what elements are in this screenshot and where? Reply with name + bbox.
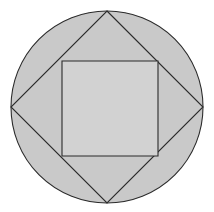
inner-square bbox=[62, 61, 158, 156]
geometric-figure-canvas bbox=[0, 0, 214, 212]
geometry-diagram bbox=[0, 0, 214, 212]
